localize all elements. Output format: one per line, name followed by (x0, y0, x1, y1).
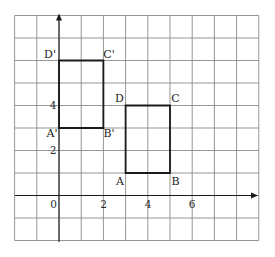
x-tick-label-6: 6 (189, 198, 196, 210)
y-axis-arrowhead-icon (56, 14, 62, 21)
x-tick-label-0: 0 (50, 198, 57, 210)
x-tick-label-4: 4 (145, 198, 152, 210)
x-tick-label-2: 2 (100, 198, 107, 210)
x-axis-arrowhead-icon (251, 193, 258, 199)
vertex-label-d-prime: D' (44, 48, 56, 61)
vertex-label-c: C (171, 92, 179, 105)
y-tick-label-2: 2 (50, 144, 57, 156)
vertex-label-c-prime: C' (103, 48, 114, 61)
tick-labels: 0 2 4 6 2 4 (50, 99, 196, 210)
vertex-label-b: B (171, 175, 179, 188)
y-tick-label-4: 4 (50, 99, 57, 111)
vertex-label-d: D (115, 92, 124, 105)
coordinate-grid-diagram: 0 2 4 6 2 4 A B C D A' B' C' D' (0, 0, 275, 257)
rectangles (59, 61, 170, 174)
vertex-label-b-prime: B' (103, 127, 114, 140)
vertex-labels: A B C D A' B' C' D' (44, 48, 180, 188)
vertex-label-a: A (115, 175, 125, 188)
vertex-label-a-prime: A' (46, 127, 58, 140)
